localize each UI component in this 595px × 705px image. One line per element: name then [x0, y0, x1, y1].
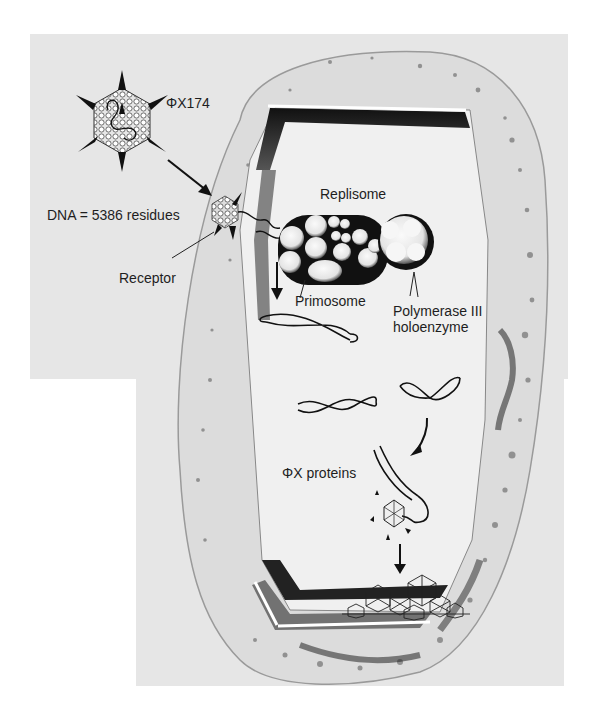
- label-receptor: Receptor: [119, 270, 176, 286]
- label-dna-size: DNA = 5386 residues: [47, 207, 180, 223]
- label-polymerase-line1: Polymerase III: [393, 303, 482, 319]
- host-cell: [178, 52, 548, 685]
- diagram-canvas: [0, 0, 595, 705]
- label-polymerase-line2: holoenzyme: [393, 319, 469, 335]
- label-primosome: Primosome: [295, 293, 366, 309]
- infection-arrow-icon: [168, 160, 212, 196]
- label-phix174: ΦX174: [166, 95, 210, 111]
- phix174-virion: [76, 70, 168, 172]
- label-replisome: Replisome: [320, 186, 386, 202]
- label-phix-proteins: ΦX proteins: [282, 465, 356, 481]
